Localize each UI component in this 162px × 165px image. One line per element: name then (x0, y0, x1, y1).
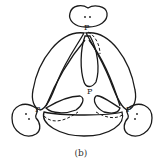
p4-orbital-diagram (0, 0, 162, 165)
figure-caption: (b) (0, 148, 162, 158)
center-vertical-lobe (81, 36, 98, 87)
bottom-bond-lobe (43, 112, 122, 136)
atom-label-top: P (84, 24, 89, 32)
atom-label-right: P (126, 106, 131, 114)
lone-pair-dot (136, 113, 138, 115)
left-outer-bond-lobe (32, 33, 84, 110)
lone-pair-dot (84, 16, 86, 18)
lone-pair-dot (89, 16, 91, 18)
lone-pair-dot (28, 118, 30, 120)
atom-label-left: P (35, 106, 40, 114)
lone-pair-dot (134, 118, 136, 120)
right-inner-edge (89, 40, 120, 106)
inner-lower-left-lobe (46, 96, 83, 113)
lone-pair-dot (25, 113, 27, 115)
inner-lower-right-lobe (94, 96, 120, 114)
atom-label-center: P (87, 88, 92, 96)
